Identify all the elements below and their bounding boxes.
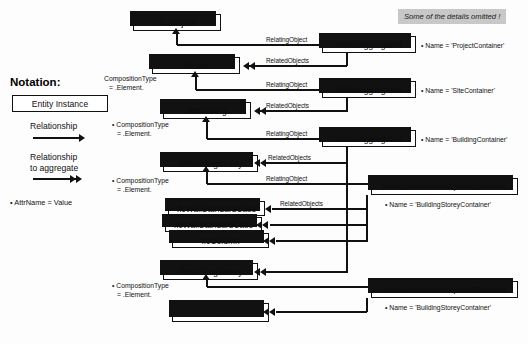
relation-ifcrelaggregates-1[interactable]: IfcRelAggregates (322, 36, 416, 53)
edge-related-objects-1 (249, 65, 347, 67)
edge-related-objects-5 (276, 311, 367, 313)
edge-relating-object-1 (177, 44, 322, 46)
edge-relating-object-4-vert (206, 172, 208, 184)
edge-label-relating-object-4: RelatingObject (266, 175, 307, 182)
entity-ifccolumn[interactable]: IfcColumn (172, 233, 269, 248)
edge-related-objects-4-trunk (366, 195, 368, 242)
edge-related-objects-1-arrowhead-2 (249, 62, 255, 70)
relation-ifcrelaggregates-2[interactable]: IfcRelAggregates (322, 81, 416, 98)
attr-storey1-compositiontype-line2: = .Element. (112, 185, 169, 194)
attr-storey1-compositiontype-line1: • CompositionType (112, 177, 169, 184)
attr-building-compositiontype: • CompositionType = .Element. (112, 120, 169, 138)
relation-ifcrelcontainedinspatialstructure-1[interactable]: IfcRelContainedInSpatialStructure (371, 178, 518, 195)
edge-related-objects-2-arrowhead-2 (260, 107, 266, 115)
edge-label-relating-object-1: RelatingObject (266, 36, 307, 43)
details-omitted-note: Some of the details omitted ! (398, 9, 506, 24)
edge-relating-object-5-arrowhead (202, 274, 210, 280)
edge-related-objects-5-arrowhead-2 (269, 308, 275, 316)
edge-label-related-objects-2: RelatedObjects (266, 102, 309, 109)
diagram-canvas: Some of the details omitted ! Notation: … (0, 0, 528, 344)
edge-label-relating-object-3: RelatingObject (266, 130, 307, 137)
attr-storey2-compositiontype: • CompositionType = .Element. (112, 281, 169, 299)
edge-relating-object-5 (207, 286, 372, 288)
edge-related-objects-2 (260, 110, 348, 112)
attr-building-compositiontype-line2: = .Element. (112, 129, 169, 138)
legend-attribute-example: • AttrName = Value (10, 198, 72, 207)
edge-label-related-objects-4: RelatedObjects (280, 200, 323, 207)
legend-aggregate-label-line1: Relationship (30, 152, 77, 163)
edge-related-objects-4a-arrowhead (265, 205, 271, 213)
attr-storey2-compositiontype-line2: = .Element. (112, 290, 169, 299)
entity-ifcbuildingstorey-2[interactable]: IfcBuildingStorey (163, 263, 258, 280)
edge-related-objects-4c-arrowhead-2 (269, 237, 275, 245)
edge-related-objects-4b-arrowhead-2 (262, 221, 268, 229)
relation-name-building-container: • Name = 'BuildingContainer' (421, 135, 507, 144)
edge-related-objects-3b (266, 271, 348, 273)
legend-title: Notation: (10, 76, 60, 88)
edge-relating-object-1-arrowhead (172, 28, 180, 34)
attr-building-compositiontype-line1: • CompositionType (112, 121, 169, 128)
legend-entity-instance-box: Entity Instance (12, 95, 108, 112)
edge-related-objects-3a-arrowhead-2 (260, 159, 266, 167)
legend-relationship-line (33, 137, 80, 139)
edge-relating-object-1-vert (176, 33, 178, 45)
attr-site-compositiontype-line2: = .Element. (104, 83, 157, 92)
attr-site-compositiontype: CompositionType = .Element. (104, 74, 157, 92)
edge-related-objects-4b (270, 224, 367, 226)
attr-site-compositiontype-line1: CompositionType (104, 75, 157, 82)
edge-relating-object-4-arrowhead (202, 166, 210, 172)
edge-related-objects-3a (266, 162, 348, 164)
edge-relating-object-4 (207, 183, 372, 185)
legend-aggregate-label-line2: to aggregate (30, 163, 78, 174)
edge-label-related-objects-1: RelatedObjects (266, 57, 309, 64)
relation-name-building-storey-container-1: • Name = 'BuildingStoreyContainer' (385, 200, 491, 209)
relation-name-site-container: • Name = 'SiteContainer' (421, 86, 495, 95)
relation-name-building-storey-container-2: • Name = 'BuildingStoreyContainer' (385, 303, 491, 312)
edge-relating-object-2-vert (195, 77, 197, 90)
edge-relating-object-2-arrowhead (191, 71, 199, 77)
edge-related-objects-4c (276, 240, 367, 242)
entity-ellipsis-box[interactable]: ... (172, 303, 269, 322)
legend-aggregate-arrow-icon-2 (76, 175, 82, 183)
edge-relating-object-3 (207, 138, 322, 140)
relation-ifcrelcontainedinspatialstructure-2[interactable]: IfcRelContainedInSpatialStructure (371, 281, 518, 298)
relation-name-project-container: • Name = 'ProjectContainer' (421, 41, 504, 50)
edge-relating-object-3-vert (206, 122, 208, 139)
legend-relationship-arrow-icon (79, 134, 85, 142)
attr-storey1-compositiontype: • CompositionType = .Element. (112, 176, 169, 194)
attr-storey2-compositiontype-line1: • CompositionType (112, 282, 169, 289)
edge-relating-object-3-arrowhead (202, 116, 210, 122)
edge-label-related-objects-3: RelatedObjects (268, 154, 311, 161)
legend-relationship-label: Relationship (30, 121, 77, 132)
entity-ifcbuildingstorey-1[interactable]: IfcBuildingStorey (163, 155, 258, 172)
edge-related-objects-4a (272, 208, 367, 210)
edge-related-objects-5-vert (366, 298, 368, 312)
edge-relating-object-5-vert (206, 280, 208, 287)
edge-relating-object-2 (196, 89, 322, 91)
edge-related-objects-3b-arrowhead-2 (260, 268, 266, 276)
edge-label-relating-object-2: RelatingObject (266, 81, 307, 88)
relation-ifcrelaggregates-3[interactable]: IfcRelAggregates (322, 130, 416, 147)
